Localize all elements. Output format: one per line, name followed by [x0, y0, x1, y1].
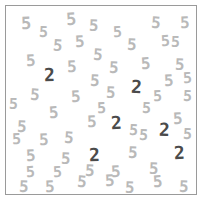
search-distractor-glyph: 5 — [39, 132, 49, 148]
search-distractor-glyph: 5 — [153, 89, 163, 104]
search-distractor-glyph: 5 — [65, 11, 76, 29]
search-distractor-glyph: 5 — [109, 60, 119, 76]
search-distractor-glyph: 5 — [90, 73, 100, 89]
search-distractor-glyph: 5 — [179, 179, 189, 195]
search-distractor-glyph: 5 — [140, 56, 151, 73]
search-array-frame: 5555555555555555525555525555252555555252… — [5, 5, 197, 195]
search-distractor-glyph: 5 — [29, 87, 40, 104]
search-distractor-glyph: 5 — [76, 174, 87, 191]
search-distractor-glyph: 5 — [61, 151, 71, 167]
search-distractor-glyph: 5 — [9, 97, 19, 112]
search-distractor-glyph: 5 — [19, 179, 29, 195]
search-distractor-glyph: 5 — [138, 128, 148, 144]
search-distractor-glyph: 5 — [180, 15, 190, 31]
search-distractor-glyph: 5 — [142, 101, 152, 116]
search-target-glyph[interactable]: 2 — [44, 66, 55, 84]
search-distractor-glyph: 5 — [173, 111, 183, 127]
search-distractor-glyph: 5 — [128, 145, 138, 161]
search-distractor-glyph: 5 — [183, 89, 193, 104]
search-distractor-glyph: 5 — [92, 47, 103, 64]
search-distractor-glyph: 5 — [160, 34, 170, 50]
search-distractor-glyph: 5 — [67, 59, 77, 75]
search-distractor-glyph: 5 — [48, 105, 59, 122]
search-distractor-glyph: 5 — [171, 35, 181, 50]
search-target-glyph[interactable]: 2 — [111, 114, 123, 133]
search-target-glyph[interactable]: 2 — [159, 121, 170, 139]
search-target-glyph[interactable]: 2 — [174, 144, 186, 163]
search-distractor-glyph: 5 — [52, 38, 63, 55]
search-distractor-glyph: 5 — [12, 132, 22, 147]
search-distractor-glyph: 5 — [128, 123, 138, 139]
search-distractor-glyph: 5 — [26, 148, 36, 164]
search-target-glyph[interactable]: 2 — [131, 78, 143, 97]
visual-search-stimulus: 5555555555555555525555525555252555555252… — [0, 0, 205, 203]
search-distractor-glyph: 5 — [127, 37, 137, 53]
search-distractor-glyph: 5 — [75, 34, 85, 50]
search-distractor-glyph: 5 — [113, 25, 123, 40]
search-distractor-glyph: 5 — [87, 114, 97, 130]
search-distractor-glyph: 5 — [152, 174, 163, 191]
search-distractor-glyph: 5 — [53, 165, 63, 180]
search-distractor-glyph: 5 — [63, 130, 74, 147]
search-distractor-glyph: 5 — [26, 53, 36, 69]
search-distractor-glyph: 5 — [106, 85, 116, 101]
search-distractor-glyph: 5 — [150, 15, 161, 32]
search-distractor-glyph: 5 — [125, 180, 135, 195]
search-distractor-glyph: 5 — [45, 179, 55, 195]
search-distractor-glyph: 5 — [97, 101, 107, 116]
search-distractor-glyph: 5 — [21, 15, 32, 32]
search-distractor-glyph: 5 — [105, 173, 115, 189]
search-distractor-glyph: 5 — [71, 89, 81, 105]
search-distractor-glyph: 5 — [89, 18, 99, 34]
search-distractor-glyph: 5 — [164, 73, 174, 89]
search-distractor-glyph: 5 — [39, 25, 49, 40]
search-distractor-glyph: 5 — [183, 71, 193, 86]
search-distractor-glyph: 5 — [183, 127, 193, 142]
